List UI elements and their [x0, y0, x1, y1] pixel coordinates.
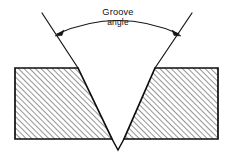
diagram-canvas: Groove angle	[0, 0, 233, 158]
arc-arrowhead-left	[55, 30, 64, 36]
groove-root-v	[112, 139, 124, 150]
groove-angle-label-line2: angle	[107, 17, 129, 27]
right-plate-hatch-fill	[124, 68, 218, 139]
left-plate	[15, 68, 112, 139]
right-plate	[124, 68, 218, 139]
groove-angle-label-line1: Groove	[102, 7, 133, 17]
groove-angle-figure: Groove angle	[0, 0, 233, 158]
left-plate-hatch-fill	[15, 68, 112, 139]
right-extension-line	[155, 13, 192, 68]
left-extension-line	[42, 13, 78, 68]
